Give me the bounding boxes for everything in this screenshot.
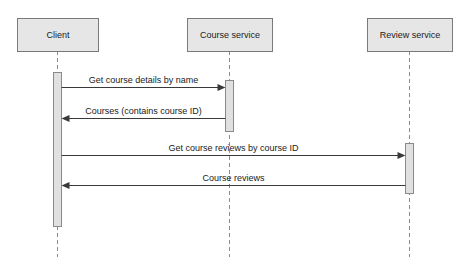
message-arrowhead-1 [218, 84, 226, 91]
message-1[interactable]: Get course details by name [62, 75, 226, 91]
message-label-3: Get course reviews by course ID [168, 143, 299, 153]
message-4[interactable]: Course reviews [62, 173, 406, 189]
sequence-diagram: Client Course service Review service Get… [0, 0, 464, 267]
activation-bar-client[interactable] [54, 73, 62, 227]
participant-label-review-service: Review service [380, 30, 441, 40]
message-arrowhead-2 [62, 115, 70, 122]
participant-review-service[interactable]: Review service [368, 19, 453, 52]
message-label-1: Get course details by name [89, 75, 199, 85]
message-arrowhead-3 [398, 152, 406, 159]
sequence-diagram-canvas: Client Course service Review service Get… [0, 0, 464, 267]
activation-bar-course-service[interactable] [226, 81, 234, 132]
participant-label-client: Client [46, 30, 70, 40]
message-arrowhead-4 [62, 182, 70, 189]
message-label-4: Course reviews [202, 173, 265, 183]
message-3[interactable]: Get course reviews by course ID [62, 143, 406, 159]
participant-course-service[interactable]: Course service [188, 19, 273, 52]
message-label-2: Courses (contains course ID) [85, 106, 202, 116]
message-2[interactable]: Courses (contains course ID) [62, 106, 226, 122]
participant-client[interactable]: Client [18, 19, 99, 52]
participant-label-course-service: Course service [200, 30, 260, 40]
activation-bar-review-service[interactable] [406, 144, 414, 194]
